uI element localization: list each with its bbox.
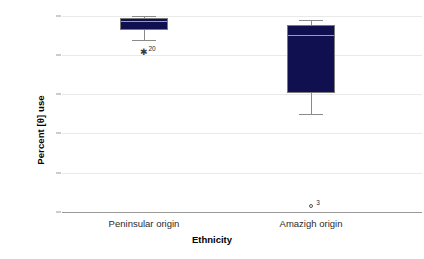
y-tick-mark-100 <box>56 16 61 17</box>
gridline-40 <box>62 133 422 134</box>
y-tick-mark-0 <box>56 212 61 213</box>
gridline-80 <box>62 55 422 56</box>
whisker-lower-cap-peninsular <box>132 40 156 41</box>
box-plot-chart: Percent [θ] use 100 80 60 40 20 0 <box>0 0 424 259</box>
whisker-upper-cap-peninsular <box>132 16 156 17</box>
outlier-marker-peninsular: ✱ <box>140 48 148 57</box>
y-tick-mark-40 <box>56 133 61 134</box>
whisker-lower-cap-amazigh <box>299 114 323 115</box>
y-tick-mark-80 <box>56 55 61 56</box>
box-peninsular <box>120 18 168 30</box>
plot-area: ✱ 20 3 <box>62 16 422 212</box>
median-line-peninsular <box>121 21 167 22</box>
gridline-60 <box>62 94 422 95</box>
whisker-upper-cap-amazigh <box>299 20 323 21</box>
whisker-lower-line-amazigh <box>311 93 312 114</box>
y-tick-mark-20 <box>56 173 61 174</box>
x-tick-label-amazigh-origin: Amazigh origin <box>280 218 343 229</box>
outlier-marker-amazigh <box>309 204 313 208</box>
whisker-lower-line-peninsular <box>144 30 145 40</box>
median-line-amazigh <box>288 35 334 36</box>
outlier-label-amazigh: 3 <box>316 199 320 206</box>
y-axis-title: Percent [θ] use <box>35 95 46 164</box>
gridline-20 <box>62 173 422 174</box>
gridline-100 <box>62 16 422 17</box>
x-tick-label-peninsular-origin: Peninsular origin <box>109 218 180 229</box>
x-axis-line <box>62 212 422 213</box>
x-axis-title: Ethnicity <box>192 234 232 245</box>
y-tick-mark-60 <box>56 94 61 95</box>
outlier-label-peninsular: 20 <box>148 45 155 52</box>
